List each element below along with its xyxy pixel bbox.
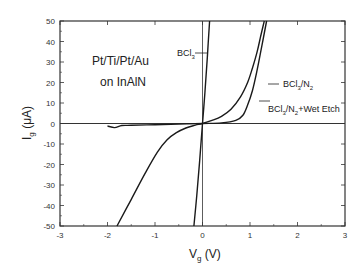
x-tick-label: 3 [343, 231, 348, 240]
x-tick-label: 2 [295, 231, 300, 240]
x-tick-label: -2 [104, 231, 112, 240]
svg-text:BCl3: BCl3 [177, 48, 196, 60]
svg-text:BCl3/N2: BCl3/N2 [283, 79, 314, 91]
chart: -3-2-1012350403020100-10-20-30-40-50 Pt/… [0, 0, 363, 276]
y-tick-label: 0 [51, 120, 56, 129]
x-axis-label: Vg (V) [189, 247, 221, 263]
curve-label-bcl3-n2: BCl3/N2 [268, 79, 314, 91]
y-tick-label: 10 [46, 99, 55, 108]
annotation-line-1: Pt/Ti/Pt/Au [92, 54, 149, 68]
svg-text:Vg (V): Vg (V) [189, 247, 221, 263]
annotation-line-2: on InAlN [100, 75, 146, 89]
y-tick-label: -20 [43, 161, 55, 170]
svg-text:BCl3/N2+Wet Etch: BCl3/N2+Wet Etch [268, 104, 340, 116]
x-tick-label: -3 [56, 231, 64, 240]
x-tick-label: 1 [248, 231, 253, 240]
y-tick-label: -40 [43, 202, 55, 211]
x-axis-label-main: V [189, 247, 197, 261]
x-axis-label-unit: (V) [201, 247, 220, 261]
curve-label-bcl3-n2-wet-etch: BCl3/N2+Wet Etch [259, 101, 340, 116]
svg-text:Ig (μA): Ig (μA) [20, 106, 36, 140]
y-tick-label: 20 [46, 79, 55, 88]
y-tick-label: 30 [46, 58, 55, 67]
y-axis-label: Ig (μA) [20, 106, 36, 140]
y-tick-label: 50 [46, 17, 55, 26]
y-tick-label: -50 [43, 222, 55, 231]
y-tick-label: -10 [43, 140, 55, 149]
x-tick-label: 0 [200, 231, 205, 240]
y-tick-label: -30 [43, 181, 55, 190]
y-tick-label: 40 [46, 38, 55, 47]
y-axis-label-unit: (μA) [20, 106, 34, 132]
x-tick-label: -1 [151, 231, 159, 240]
